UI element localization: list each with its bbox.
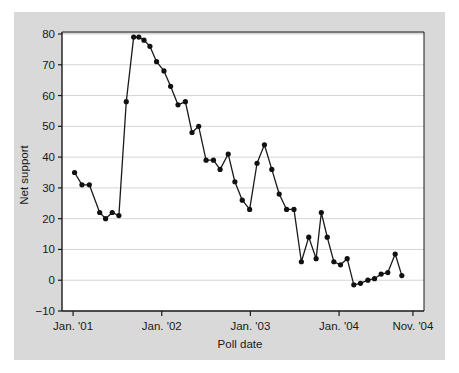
y-tick-label: 40 — [42, 151, 55, 163]
data-point — [365, 278, 370, 283]
x-tick-label: Jan. '02 — [142, 320, 182, 332]
x-tick-label: Nov. '04 — [392, 320, 434, 332]
y-tick-label: 30 — [42, 182, 55, 194]
data-point — [262, 142, 267, 147]
data-point — [319, 210, 324, 215]
y-tick-label: 0 — [49, 274, 55, 286]
data-point — [393, 251, 398, 256]
data-point — [161, 68, 166, 73]
data-point — [254, 161, 259, 166]
x-axis-title: Poll date — [218, 338, 263, 350]
data-point — [314, 256, 319, 261]
data-point — [284, 207, 289, 212]
data-point — [154, 59, 159, 64]
data-point — [131, 34, 136, 39]
data-point — [325, 235, 330, 240]
data-point — [226, 151, 231, 156]
y-axis-title: Net support — [18, 144, 30, 204]
x-axis-ticks — [73, 311, 413, 316]
data-point — [175, 102, 180, 107]
chart-figure: −1001020304050607080 Jan. '01Jan. '02Jan… — [0, 0, 459, 373]
x-tick-label: Jan. '01 — [53, 320, 93, 332]
data-point — [211, 158, 216, 163]
data-point — [72, 170, 77, 175]
data-point — [358, 281, 363, 286]
y-axis-tick-labels: −1001020304050607080 — [35, 28, 55, 317]
data-point — [277, 191, 282, 196]
data-point — [351, 282, 356, 287]
data-point — [168, 84, 173, 89]
plot-area-background — [62, 34, 424, 311]
data-point — [79, 182, 84, 187]
data-point — [345, 256, 350, 261]
data-point — [399, 273, 404, 278]
data-point — [183, 99, 188, 104]
data-point — [124, 99, 129, 104]
data-point — [372, 276, 377, 281]
line-chart: −1001020304050607080 Jan. '01Jan. '02Jan… — [0, 0, 459, 373]
data-point — [379, 271, 384, 276]
plot-area-rect — [62, 34, 424, 311]
y-tick-label: 70 — [42, 59, 55, 71]
data-point — [87, 182, 92, 187]
x-axis-tick-labels: Jan. '01Jan. '02Jan. '03Jan. '04Nov. '04 — [53, 320, 434, 332]
y-tick-label: 60 — [42, 90, 55, 102]
data-point — [196, 124, 201, 129]
data-point — [189, 130, 194, 135]
x-tick-label: Jan. '04 — [319, 320, 360, 332]
data-point — [97, 210, 102, 215]
data-point — [299, 259, 304, 264]
data-point — [385, 270, 390, 275]
data-point — [291, 207, 296, 212]
data-point — [331, 259, 336, 264]
data-point — [247, 207, 252, 212]
data-point — [203, 158, 208, 163]
data-point — [306, 235, 311, 240]
data-point — [141, 38, 146, 43]
y-tick-label: 80 — [42, 28, 55, 40]
y-tick-label: 20 — [42, 213, 55, 225]
y-tick-label: 50 — [42, 120, 55, 132]
data-point — [103, 216, 108, 221]
data-point — [240, 198, 245, 203]
data-point — [147, 44, 152, 49]
x-tick-label: Jan. '03 — [230, 320, 270, 332]
data-point — [269, 167, 274, 172]
data-point — [136, 34, 141, 39]
data-point — [116, 213, 121, 218]
data-point — [338, 262, 343, 267]
y-tick-label: −10 — [35, 305, 55, 317]
data-point — [217, 167, 222, 172]
data-point — [110, 210, 115, 215]
data-point — [232, 179, 237, 184]
y-tick-label: 10 — [42, 243, 55, 255]
